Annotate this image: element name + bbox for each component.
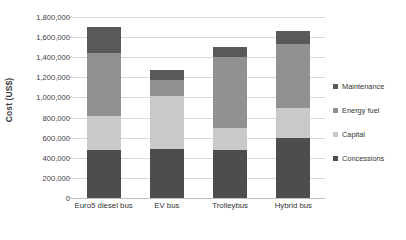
y-axis-tick-label: 1,600,000 [8, 33, 70, 42]
bar-segment[interactable] [213, 57, 247, 127]
bar-segment[interactable] [87, 116, 121, 150]
y-axis-tick-label: 1,400,000 [8, 53, 70, 62]
legend-swatch-icon [333, 132, 338, 137]
legend-item[interactable]: Capital [333, 122, 405, 146]
bar-segment[interactable] [150, 149, 184, 198]
bar-group[interactable] [276, 17, 310, 198]
bar-stack [150, 17, 184, 198]
bar-group[interactable] [213, 17, 247, 198]
bar-segment[interactable] [276, 108, 310, 138]
x-axis-tick-label: Trolleybus [194, 201, 266, 212]
x-axis-tick-label: Euro5 diesel bus [68, 201, 140, 212]
chart-legend: MaintenanceEnergy fuelCapitalConcessions [333, 74, 405, 170]
legend-swatch-icon [333, 108, 338, 113]
legend-item-label: Capital [342, 130, 365, 139]
bar-segment[interactable] [213, 47, 247, 57]
bar-segment[interactable] [87, 53, 121, 115]
legend-swatch-icon [333, 156, 338, 161]
y-axis-tick-label: 800,000 [8, 113, 70, 122]
y-axis-tick-label: 200,000 [8, 173, 70, 182]
bar-segment[interactable] [87, 27, 121, 53]
legend-item-label: Maintenance [342, 82, 384, 91]
gridline [72, 198, 325, 199]
y-axis-tick-label: 1,200,000 [8, 73, 70, 82]
bar-segment[interactable] [213, 128, 247, 150]
x-axis-tick-label: Hybrid bus [257, 201, 329, 212]
bar-segment[interactable] [150, 96, 184, 148]
bars-layer [72, 17, 325, 198]
legend-item[interactable]: Energy fuel [333, 98, 405, 122]
bar-stack [87, 17, 121, 198]
plot-area [72, 17, 325, 198]
x-axis-tick-labels: Euro5 diesel busEV busTrolleybusHybrid b… [72, 201, 325, 237]
x-axis-tick-label: EV bus [131, 201, 203, 212]
y-axis-tick-label: 0 [8, 194, 70, 203]
bar-segment[interactable] [276, 44, 310, 107]
bar-stack [213, 17, 247, 198]
y-axis-tick-label: 600,000 [8, 133, 70, 142]
stacked-bar-chart: Cost (US$) 1,800,0001,600,0001,400,0001,… [0, 0, 406, 240]
y-axis-tick-label: 1,800,000 [8, 13, 70, 22]
y-axis-tick-label: 400,000 [8, 153, 70, 162]
legend-swatch-icon [333, 84, 338, 89]
legend-item-label: Concessions [342, 154, 384, 163]
y-axis-tick-label: 1,000,000 [8, 93, 70, 102]
bar-group[interactable] [150, 17, 184, 198]
legend-item[interactable]: Concessions [333, 146, 405, 170]
legend-item-label: Energy fuel [342, 106, 379, 115]
bar-segment[interactable] [87, 150, 121, 198]
bar-segment[interactable] [150, 80, 184, 96]
bar-segment[interactable] [150, 70, 184, 80]
bar-segment[interactable] [276, 31, 310, 45]
bar-segment[interactable] [213, 150, 247, 198]
bar-segment[interactable] [276, 138, 310, 198]
bar-group[interactable] [87, 17, 121, 198]
bar-stack [276, 17, 310, 198]
legend-item[interactable]: Maintenance [333, 74, 405, 98]
